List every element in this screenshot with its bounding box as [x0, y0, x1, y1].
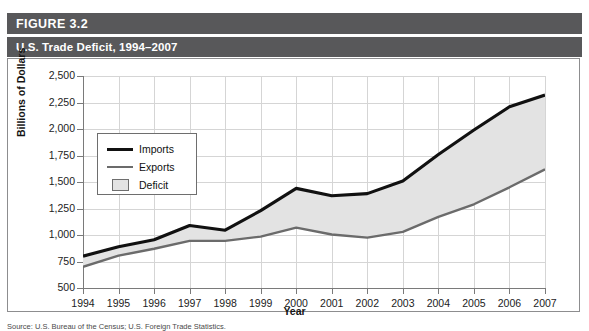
- legend-item-exports: Exports: [106, 158, 196, 176]
- figure-number-bar: FIGURE 3.2: [7, 13, 582, 34]
- x-axis-line: [83, 288, 545, 289]
- source-note: Source: U.S. Bureau of the Census; U.S. …: [7, 322, 582, 331]
- legend-label-exports: Exports: [134, 161, 175, 173]
- y-axis-tick-label: 2,000: [31, 122, 75, 134]
- figure-number-label: FIGURE 3.2: [7, 17, 88, 31]
- legend-label-imports: Imports: [134, 143, 174, 155]
- y-axis-tick-label: 750: [31, 255, 75, 267]
- y-axis-tick-label: 1,000: [31, 228, 75, 240]
- chart-panel: Billions of Dollars Year 5007501,0001,25…: [7, 58, 580, 312]
- y-axis-tick-label: 2,500: [31, 69, 75, 81]
- x-axis-tick: [545, 288, 546, 294]
- legend-label-deficit: Deficit: [134, 179, 168, 191]
- gridline-vertical: [545, 76, 546, 288]
- y-axis-tick-label: 1,750: [31, 149, 75, 161]
- x-axis-tick-label: 2007: [523, 297, 567, 309]
- legend-item-imports: Imports: [106, 140, 196, 158]
- legend-item-deficit: Deficit: [106, 176, 196, 194]
- y-axis-tick-label: 1,500: [31, 175, 75, 187]
- deficit-swatch-icon: [106, 179, 134, 191]
- y-axis-title: Billions of Dollars: [15, 48, 27, 137]
- imports-line-icon: [106, 148, 134, 151]
- figure-title-bar: U.S. Trade Deficit, 1994–2007: [7, 36, 582, 57]
- chart-legend: Imports Exports Deficit: [97, 133, 197, 195]
- figure-title-label: U.S. Trade Deficit, 1994–2007: [7, 41, 177, 53]
- y-axis-tick-label: 500: [31, 281, 75, 293]
- y-axis-tick-label: 1,250: [31, 202, 75, 214]
- figure-container: FIGURE 3.2 U.S. Trade Deficit, 1994–2007…: [0, 6, 589, 329]
- y-axis-tick-label: 2,250: [31, 96, 75, 108]
- exports-line-icon: [106, 166, 134, 168]
